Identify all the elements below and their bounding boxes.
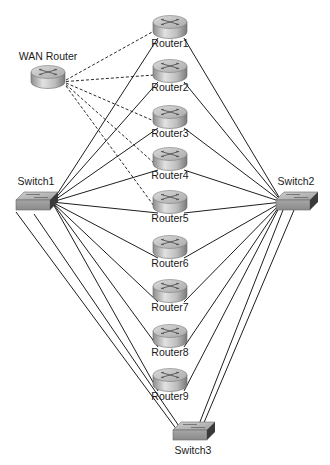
router-3[interactable]: Router3 <box>151 106 189 140</box>
wan-router-label: WAN Router <box>19 50 78 62</box>
router-3-label: Router3 <box>151 127 189 139</box>
router-2-label: Router2 <box>151 81 189 93</box>
link-switch2-r2 <box>184 82 282 202</box>
router-5[interactable]: Router5 <box>151 191 189 225</box>
switch-2-label: Switch2 <box>278 175 315 187</box>
router-6-label: Router6 <box>151 257 189 269</box>
link-switch1-r5 <box>52 202 158 213</box>
router-6[interactable]: Router6 <box>151 236 189 270</box>
switch-front <box>16 200 50 210</box>
link-switch2-r5 <box>184 202 282 213</box>
link-switch1-r8 <box>52 202 158 347</box>
wan-link-r4 <box>66 85 154 164</box>
wan-link-r1 <box>66 31 154 80</box>
router-2[interactable]: Router2 <box>151 60 189 94</box>
switch-3[interactable]: Switch3 <box>173 422 215 456</box>
router-7[interactable]: Router7 <box>151 280 189 314</box>
switch-2[interactable]: Switch2 <box>276 175 318 210</box>
link-switch2-switch3 <box>200 210 294 432</box>
router-8[interactable]: Router8 <box>151 325 189 359</box>
router-1-label: Router1 <box>151 37 189 49</box>
link-switch2-r8 <box>184 202 282 347</box>
switch-front <box>276 200 310 210</box>
link-switch2-r1 <box>184 38 282 202</box>
wan-link-r5 <box>66 86 154 206</box>
link-switch1-r7 <box>52 202 158 302</box>
router-9[interactable]: Router9 <box>151 369 189 403</box>
link-switch1-r4 <box>52 170 158 202</box>
switch-1[interactable]: Switch1 <box>16 175 58 210</box>
switch-front <box>173 430 207 440</box>
link-switch2-r7 <box>184 202 282 302</box>
switch-1-label: Switch1 <box>18 175 55 187</box>
router-7-label: Router7 <box>151 301 189 313</box>
wan-link-r2 <box>66 75 154 82</box>
router-1[interactable]: Router1 <box>151 16 189 50</box>
router-5-label: Router5 <box>151 212 189 224</box>
wan-router[interactable]: WAN Router <box>19 50 78 89</box>
router-8-label: Router8 <box>151 346 189 358</box>
link-switch2-r4 <box>184 170 282 202</box>
link-switch1-r1 <box>52 38 158 202</box>
switch-3-label: Switch3 <box>175 444 212 456</box>
link-switch2-r3 <box>184 128 282 202</box>
router-4-label: Router4 <box>151 169 189 181</box>
network-diagram: WAN RouterRouter1Router2Router3Router4Ro… <box>0 0 330 465</box>
router-4[interactable]: Router4 <box>151 148 189 182</box>
router-9-label: Router9 <box>151 390 189 402</box>
